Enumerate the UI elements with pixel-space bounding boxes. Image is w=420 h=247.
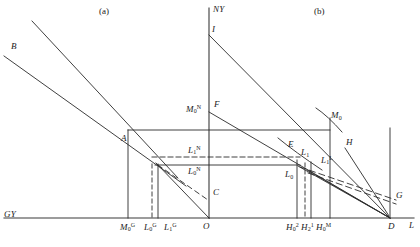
schedule-i-d: [209, 35, 390, 218]
panel-b-tag: (b): [314, 6, 325, 16]
point-label-i: I: [212, 25, 215, 34]
ray-dashed-g-lower: [308, 173, 396, 204]
axis-label-ny: NY: [213, 5, 224, 14]
ray-dashed-g-upper: [300, 167, 396, 200]
point-label-a: A: [121, 134, 127, 143]
axis-mark-l1g: L1G: [164, 222, 177, 232]
point-label-m0: M0: [331, 111, 342, 121]
axis-mark-h0m: H0M: [316, 222, 331, 232]
point-label-b: B: [11, 42, 17, 51]
axis-label-gy: GY: [4, 210, 16, 219]
point-label-o: O: [203, 222, 210, 231]
axis-mark-l0n: L0N: [188, 166, 201, 176]
schedule-b-left: [4, 56, 186, 186]
axis-mark-l1n: L1N: [188, 145, 201, 155]
point-label-e: E: [288, 140, 294, 149]
figure-svg: [0, 0, 420, 247]
axis-mark-l0g: L0G: [144, 222, 157, 232]
point-label-l1: L1: [301, 148, 309, 158]
axis-mark-h02: H02: [286, 222, 299, 232]
ray-h-to-d: [345, 148, 389, 216]
ray-to-origin: [156, 163, 209, 218]
axis-mark-m0g: M0G: [120, 222, 135, 232]
figure-canvas: (a) (b) NY GY L B A I F C O E H G D M0 L…: [0, 0, 420, 247]
panel-a-tag: (a): [99, 6, 109, 16]
point-label-c: C: [213, 188, 219, 197]
point-label-l0: L0: [285, 170, 293, 180]
point-label-h: H: [346, 138, 353, 147]
point-label-d: D: [388, 222, 395, 231]
point-label-l1-sup-l: L1L: [321, 155, 333, 165]
point-label-f: F: [214, 100, 220, 109]
axis-mark-h21: H21: [301, 222, 314, 232]
schedule-steep-left: [32, 21, 178, 178]
axis-label-l: L: [409, 221, 414, 230]
axis-mark-m0n: M0N: [186, 104, 201, 114]
point-label-g: G: [396, 191, 403, 200]
